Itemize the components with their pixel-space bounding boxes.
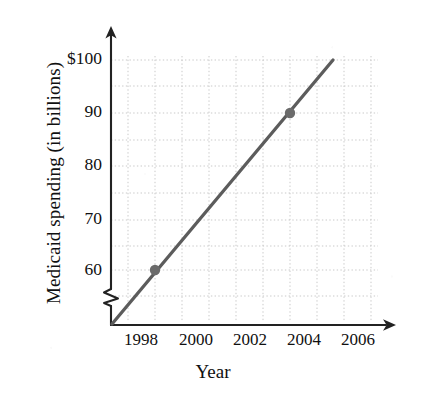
y-axis — [104, 26, 118, 325]
grid-horizontal — [111, 60, 378, 296]
data-line — [112, 60, 333, 324]
x-tick-label-2004: 2004 — [274, 331, 334, 348]
x-axis-title: Year — [0, 361, 426, 383]
data-point-1999-60 — [150, 265, 160, 275]
x-tick-label-2000: 2000 — [166, 331, 226, 348]
line-chart-figure: $100 90 80 70 60 1998 2000 2002 2004 200… — [0, 0, 426, 395]
data-point-2004-90 — [285, 108, 295, 118]
x-tick-label-2006: 2006 — [328, 331, 388, 348]
x-tick-label-1998: 1998 — [111, 331, 171, 348]
x-axis — [111, 319, 396, 330]
grid-vertical — [128, 56, 371, 322]
x-tick-label-2002: 2002 — [220, 331, 280, 348]
y-axis-break-icon — [104, 289, 118, 306]
y-axis-title: Medicaid spending (in billions) — [43, 33, 65, 333]
